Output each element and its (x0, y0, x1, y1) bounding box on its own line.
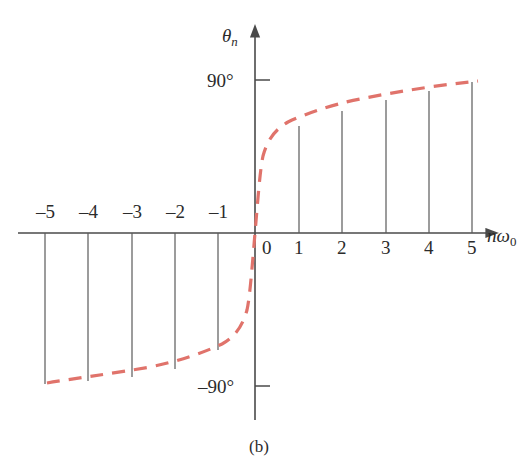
stem-group-positive (299, 82, 472, 233)
x-axis-label-sub: 0 (510, 234, 516, 249)
x-axis-label: nω0 (487, 226, 516, 249)
x-tick-label-minus-4: –4 (79, 202, 98, 221)
y-tick-label-90: 90° (207, 71, 234, 90)
x-tick-label-1: 1 (294, 238, 304, 257)
stem-group-negative (45, 233, 218, 384)
x-tick-label-2: 2 (337, 238, 347, 257)
y-tick-label-minus-90: –90° (198, 377, 234, 396)
figure-caption: (b) (249, 438, 269, 455)
phase-spectrum-figure: θn nω0 90° –90° –5 –4 –3 –2 –1 0 1 2 3 4… (0, 0, 527, 472)
phase-spectrum-plot (0, 0, 527, 472)
x-tick-label-minus-1: –1 (209, 202, 228, 221)
y-axis-label-sub: n (231, 34, 237, 49)
x-tick-label-minus-3: –3 (123, 202, 142, 221)
y-axis-label: θn (222, 26, 238, 49)
x-tick-label-4: 4 (424, 238, 434, 257)
x-tick-label-0: 0 (262, 238, 272, 257)
phase-envelope-curve (47, 81, 478, 383)
x-tick-label-minus-2: –2 (166, 202, 185, 221)
x-tick-label-5: 5 (467, 238, 477, 257)
x-tick-label-minus-5: –5 (36, 202, 55, 221)
y-axis-label-main: θ (222, 25, 231, 46)
x-tick-label-3: 3 (381, 238, 391, 257)
x-axis-label-main: nω (487, 225, 510, 246)
